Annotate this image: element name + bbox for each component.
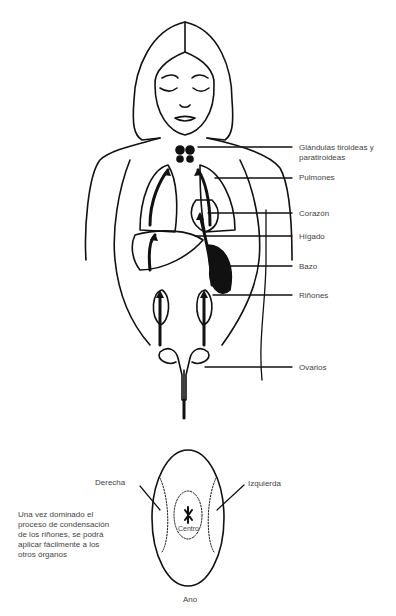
eye-left <box>160 88 177 91</box>
label-ovaries: Ovarios <box>299 363 327 373</box>
explanatory-note: Una vez dominado el proceso de condensac… <box>18 510 113 560</box>
eyebrow-left <box>162 75 178 78</box>
label-spleen: Bazo <box>299 262 317 272</box>
label-lungs: Pulmones <box>299 173 335 183</box>
uterus <box>159 349 209 400</box>
label-heart: Corazón <box>299 209 329 219</box>
label-liver: Hígado <box>299 232 325 242</box>
thyroid <box>176 146 184 154</box>
center-mark <box>185 507 192 523</box>
right-pointer <box>140 486 160 510</box>
mouth <box>175 117 195 122</box>
lung-left <box>140 165 177 232</box>
label-right: Derecha <box>95 478 125 488</box>
nose <box>180 105 190 107</box>
face-outline <box>155 52 214 135</box>
label-thyroid-line1: Glándulas tiroideas y <box>299 143 374 153</box>
label-thyroid: Glándulas tiroideas y paratiroideas <box>299 143 374 163</box>
label-anus: Ano <box>183 595 197 605</box>
label-kidneys: Riñones <box>299 291 328 301</box>
label-left: Izquierda <box>248 479 281 489</box>
eye-right <box>193 88 209 91</box>
liver <box>132 231 203 270</box>
eyebrow-right <box>192 75 208 78</box>
torso-right <box>222 160 260 345</box>
hair-outline <box>133 22 232 140</box>
label-center: Centro <box>178 524 199 534</box>
label-thyroid-line2: paratiroideas <box>299 153 374 163</box>
